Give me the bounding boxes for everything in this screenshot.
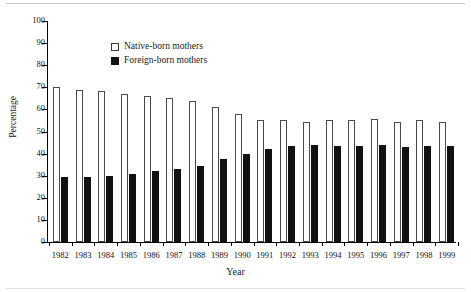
top-divider (6, 3, 465, 4)
y-tick-label: 60 (37, 102, 46, 115)
x-tick-mark (458, 242, 459, 246)
y-axis-title: Percentage (8, 54, 18, 96)
bar-native-1997 (394, 122, 401, 242)
x-tick-label: 1982 (49, 249, 72, 261)
bottom-divider (6, 288, 465, 289)
x-tick-label: 1999 (435, 249, 458, 261)
x-tick-label: 1996 (367, 249, 390, 261)
x-tick-label: 1997 (390, 249, 413, 261)
bar-foreign-1997 (402, 147, 409, 242)
x-tick-mark (367, 242, 368, 246)
x-tick-mark (390, 242, 391, 246)
bar-native-1998 (416, 120, 423, 242)
bar-foreign-1999 (447, 146, 454, 242)
x-tick-mark (208, 242, 209, 246)
bar-foreign-1998 (424, 146, 431, 242)
x-tick-label: 1987 (163, 249, 186, 261)
bar-native-1982 (53, 87, 60, 242)
y-tick-label: 100 (32, 14, 45, 27)
bar-native-1999 (439, 122, 446, 242)
bar-foreign-1982 (61, 177, 68, 242)
x-tick-label: 1995 (344, 249, 367, 261)
x-tick-mark (344, 242, 345, 246)
bar-foreign-1994 (334, 146, 341, 242)
x-tick-label: 1983 (72, 249, 95, 261)
x-tick-mark (49, 242, 50, 246)
x-tick-mark (140, 242, 141, 246)
x-tick-label: 1993 (299, 249, 322, 261)
y-tick-label: 30 (37, 169, 46, 182)
bar-native-1990 (235, 114, 242, 242)
y-axis-title-text: Percentage (8, 96, 18, 138)
x-tick-mark (231, 242, 232, 246)
bar-foreign-1987 (174, 169, 181, 242)
bar-native-1992 (280, 120, 287, 242)
bar-native-1994 (326, 120, 333, 242)
y-tick-label: 40 (37, 147, 46, 160)
x-tick-label: 1994 (322, 249, 345, 261)
x-tick-label: 1988 (185, 249, 208, 261)
x-tick-mark (322, 242, 323, 246)
bar-native-1983 (76, 90, 83, 242)
x-tick-mark (254, 242, 255, 246)
bar-native-1995 (348, 120, 355, 242)
bar-foreign-1984 (106, 176, 113, 242)
bar-foreign-1988 (197, 166, 204, 242)
bar-foreign-1990 (243, 154, 250, 242)
bar-foreign-1986 (152, 171, 159, 242)
x-tick-label: 1984 (94, 249, 117, 261)
x-tick-label: 1990 (231, 249, 254, 261)
x-tick-mark (299, 242, 300, 246)
bar-foreign-1995 (356, 146, 363, 242)
x-axis-title: Year (0, 266, 471, 277)
bar-native-1986 (144, 96, 151, 242)
x-axis-line (47, 242, 456, 243)
bar-native-1985 (121, 94, 128, 242)
x-tick-mark (435, 242, 436, 246)
x-tick-label: 1986 (140, 249, 163, 261)
y-tick-label: 10 (37, 213, 46, 226)
y-axis-line (47, 21, 48, 243)
bar-foreign-1991 (265, 149, 272, 242)
x-tick-mark (72, 242, 73, 246)
bar-foreign-1992 (288, 146, 295, 242)
bar-native-1993 (303, 122, 310, 242)
bar-foreign-1989 (220, 159, 227, 242)
x-tick-mark (276, 242, 277, 246)
y-tick-label: 70 (37, 80, 46, 93)
y-tick-label: 90 (37, 36, 46, 49)
bar-native-1988 (189, 101, 196, 242)
x-tick-mark (163, 242, 164, 246)
x-tick-label: 1991 (254, 249, 277, 261)
x-tick-label: 1992 (276, 249, 299, 261)
x-tick-mark (413, 242, 414, 246)
bar-native-1987 (166, 98, 173, 242)
bar-native-1984 (98, 91, 105, 242)
bar-foreign-1985 (129, 174, 136, 243)
x-tick-label: 1998 (413, 249, 436, 261)
x-tick-mark (94, 242, 95, 246)
x-tick-mark (185, 242, 186, 246)
y-tick-label: 50 (37, 125, 46, 138)
bar-foreign-1993 (311, 145, 318, 242)
x-tick-label: 1985 (117, 249, 140, 261)
bar-native-1989 (212, 107, 219, 242)
bar-foreign-1996 (379, 145, 386, 242)
bar-foreign-1983 (84, 177, 91, 242)
y-tick-label: 0 (41, 235, 45, 248)
chart-figure: Percentage Year Native-born mothers Fore… (0, 0, 471, 292)
x-tick-mark (117, 242, 118, 246)
bar-native-1996 (371, 119, 378, 242)
x-tick-label: 1989 (208, 249, 231, 261)
y-tick-label: 80 (37, 58, 46, 71)
bar-native-1991 (257, 120, 264, 242)
y-tick-label: 20 (37, 191, 46, 204)
plot-area: 0102030405060708090100 19821983198419851… (47, 21, 456, 243)
